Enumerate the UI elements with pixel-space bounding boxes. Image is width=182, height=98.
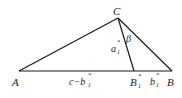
segment-label-b1: b * 1 xyxy=(150,72,159,88)
svg-text:*: * xyxy=(88,72,91,78)
svg-text:1: 1 xyxy=(138,83,141,89)
svg-text:a: a xyxy=(111,43,116,54)
vertex-label-B: B xyxy=(167,76,174,88)
svg-text:*: * xyxy=(138,73,141,79)
svg-text:c−b: c−b xyxy=(69,76,85,87)
svg-text:B: B xyxy=(130,76,137,88)
vertex-label-A: A xyxy=(11,76,19,88)
segment-label-a1: a * 1 xyxy=(111,39,120,55)
triangle-diagram: A C B B * 1 a * 1 β b * 1 c−b * 1 xyxy=(0,0,182,98)
svg-text:1: 1 xyxy=(88,82,91,88)
angle-label-beta: β xyxy=(125,33,131,44)
svg-text:*: * xyxy=(156,72,159,78)
svg-text:1: 1 xyxy=(117,49,120,55)
svg-text:b: b xyxy=(150,76,155,87)
side-AC xyxy=(19,18,118,71)
svg-text:*: * xyxy=(117,39,120,45)
svg-text:1: 1 xyxy=(156,82,159,88)
vertex-label-C: C xyxy=(113,5,121,17)
segment-label-c-minus-b1: c−b * 1 xyxy=(69,72,91,88)
point-label-B1: B * 1 xyxy=(130,73,141,89)
